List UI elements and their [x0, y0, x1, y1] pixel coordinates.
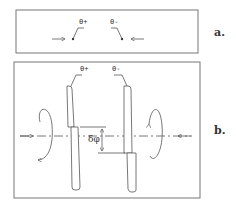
offset-label: δφ: [88, 134, 100, 144]
particle-leader-left-b: [71, 75, 82, 86]
particle-label-left-b: θ+: [80, 65, 88, 73]
particle-label-right-b: θ-: [112, 65, 120, 73]
string-segment-lower-left: [71, 127, 80, 190]
string-segment-upper-left: [67, 86, 74, 127]
particle-leader-left-a: [73, 28, 84, 39]
particle-label-right-a: θ-: [110, 18, 118, 26]
string-segment-upper-right: [124, 86, 132, 153]
rotation-arrow-left-icon: [38, 109, 52, 160]
rotation-arrow-right-icon: [149, 109, 162, 158]
diagram-canvas: [0, 0, 236, 203]
panel-b-label: b.: [214, 124, 226, 137]
particle-leader-right-b: [114, 75, 127, 86]
particle-leader-right-a: [111, 28, 122, 39]
panel-a-label: a.: [214, 26, 225, 39]
particle-label-left-a: θ+: [79, 18, 87, 26]
panel-a-frame: [16, 10, 198, 53]
panel-a: [16, 10, 198, 53]
panel-b: [14, 62, 200, 198]
panel-b-frame: [14, 62, 200, 198]
string-segment-lower-right: [127, 153, 136, 192]
